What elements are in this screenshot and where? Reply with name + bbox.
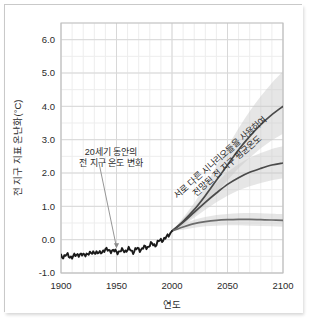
climate-warming-chart: -1.00.01.02.03.04.05.06.0 19001950200020… <box>5 5 303 313</box>
x-tick-label: 1900 <box>50 280 71 291</box>
y-tick-label: 0.0 <box>42 234 55 245</box>
y-tick-label: 6.0 <box>42 34 55 45</box>
y-tick-label: 3.0 <box>42 134 55 145</box>
y-tick-label: 2.0 <box>42 167 55 178</box>
annotation-text-line: 전 지구 온도 변화 <box>79 158 143 168</box>
chart-svg: -1.00.01.02.03.04.05.06.0 19001950200020… <box>5 5 303 313</box>
annotation-text-line: 20세기 동안의 <box>85 147 138 157</box>
x-tick-label: 2000 <box>161 280 182 291</box>
historical-annotation: 20세기 동안의전 지구 온도 변화 <box>79 147 143 168</box>
x-tick-label: 2100 <box>272 280 293 291</box>
y-axis-title: 전 지구 지표 온난화(°C) <box>12 100 23 197</box>
y-tick-label: 5.0 <box>42 67 55 78</box>
chart-card: -1.00.01.02.03.04.05.06.0 19001950200020… <box>4 4 302 312</box>
x-axis-title: 연도 <box>163 299 181 310</box>
x-tick-label: 2050 <box>217 280 238 291</box>
y-tick-label: -1.0 <box>39 267 55 278</box>
x-tick-label: 1950 <box>106 280 127 291</box>
y-tick-label: 4.0 <box>42 101 55 112</box>
y-tick-label: 1.0 <box>42 201 55 212</box>
